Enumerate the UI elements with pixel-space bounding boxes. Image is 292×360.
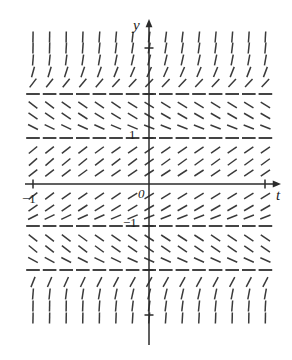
slope-segment — [33, 55, 34, 66]
slope-segment — [64, 277, 69, 287]
slope-segment — [261, 193, 270, 199]
slope-segment — [128, 159, 137, 166]
slope-segment — [128, 113, 137, 119]
slope-segment — [244, 170, 253, 176]
slope-segment — [132, 43, 134, 54]
slope-segment — [177, 258, 187, 262]
slope-field-figure: y t 0 −1 1 −1 — [0, 0, 292, 360]
slope-segment — [227, 215, 237, 219]
slope-segment — [97, 67, 101, 77]
slope-segment — [62, 170, 71, 177]
slope-segment — [198, 43, 200, 54]
slope-segment — [79, 79, 86, 87]
slope-segment — [112, 147, 121, 153]
slope-segment — [165, 32, 166, 43]
slope-segment — [65, 67, 68, 77]
slope-segment — [99, 301, 100, 312]
slope-segment — [210, 125, 220, 129]
slope-segment — [115, 43, 116, 54]
slope-segment — [196, 277, 201, 287]
slope-segment — [78, 170, 87, 177]
slope-segment — [261, 147, 270, 153]
slope-segment — [62, 246, 71, 253]
slope-segment — [263, 67, 267, 77]
slope-segment — [178, 102, 187, 108]
slope-segment — [244, 147, 253, 153]
slope-segment — [47, 277, 51, 287]
slope-segment — [263, 277, 268, 287]
slope-segment — [179, 79, 187, 87]
slope-segment — [82, 43, 83, 54]
slope-segment — [228, 79, 236, 87]
slope-field-canvas — [0, 0, 292, 360]
slope-segment — [244, 113, 254, 119]
slope-segment — [211, 246, 220, 252]
slope-segment — [161, 246, 170, 252]
slope-segment — [94, 125, 104, 129]
slope-segment — [244, 159, 253, 166]
slope-segment — [244, 235, 253, 241]
slope-segment — [66, 55, 67, 66]
slope-segment — [128, 235, 137, 241]
slope-segment — [244, 193, 253, 199]
slope-segment — [95, 235, 104, 241]
slope-segment — [177, 125, 187, 129]
slope-segment — [228, 246, 237, 252]
slope-segment — [261, 170, 270, 176]
slope-segment — [99, 43, 100, 54]
slope-segment — [228, 159, 237, 166]
slope-segment — [62, 235, 71, 242]
slope-segment — [78, 246, 87, 253]
slope-segment — [264, 55, 266, 66]
slope-segment — [79, 159, 88, 166]
slope-segment — [228, 235, 237, 241]
slope-segment — [115, 55, 117, 66]
slope-segment — [32, 67, 35, 78]
slope-segment — [227, 125, 237, 129]
slope-segment — [181, 55, 183, 66]
slope-segment — [49, 289, 50, 300]
slope-segment — [246, 277, 251, 287]
slope-segment — [178, 170, 187, 176]
slope-segment — [198, 301, 199, 312]
slope-segment — [161, 102, 170, 108]
slope-segment — [244, 258, 254, 262]
slope-segment — [231, 289, 233, 300]
slope-segment — [28, 125, 38, 130]
slope-segment — [130, 277, 135, 287]
slope-segment — [29, 245, 37, 252]
slope-segment — [211, 102, 220, 108]
slope-segment — [260, 258, 270, 262]
slope-segment — [194, 193, 203, 199]
slope-segment — [161, 159, 170, 165]
slope-segment — [82, 289, 84, 300]
slope-segment — [214, 55, 216, 66]
slope-segment — [33, 289, 34, 300]
slope-segment — [112, 246, 121, 252]
slope-segment — [45, 170, 54, 177]
slope-segment — [95, 102, 104, 108]
slope-segment — [128, 205, 137, 211]
slope-segment — [45, 158, 53, 165]
slope-segment — [116, 32, 117, 43]
origin-label: 0 — [138, 187, 145, 200]
slope-segment — [244, 246, 253, 252]
slope-segment — [111, 205, 120, 211]
slope-segment — [161, 170, 170, 176]
slope-segment — [178, 235, 187, 241]
slope-segment — [265, 301, 266, 312]
slope-segment — [178, 147, 187, 153]
slope-segment — [111, 215, 121, 219]
slope-segment — [66, 289, 67, 300]
slope-segment — [49, 55, 50, 66]
slope-segment — [194, 246, 203, 252]
slope-segment — [265, 43, 266, 54]
slope-segment — [178, 193, 187, 199]
slope-segment — [161, 258, 171, 262]
slope-segment — [197, 67, 201, 77]
slope-segment — [260, 215, 270, 219]
slope-segment — [177, 215, 187, 219]
slope-segment — [29, 170, 38, 177]
slope-segment — [261, 235, 270, 241]
slope-segment — [128, 170, 137, 176]
